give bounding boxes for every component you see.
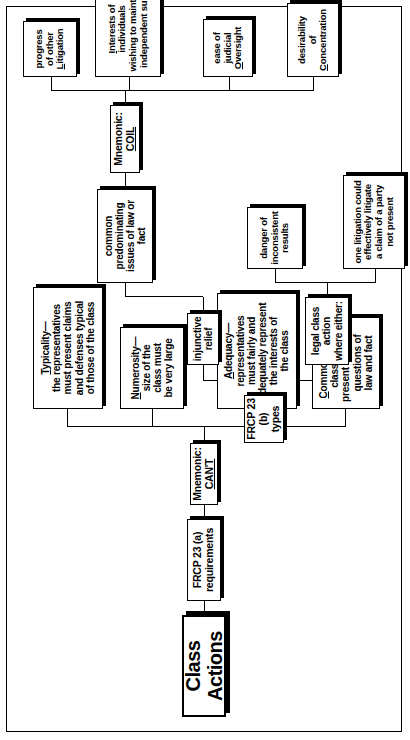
node-frcp-23a[interactable]: FRCP 23 (a) requirements <box>187 519 221 601</box>
connector-mnemonic-stub <box>204 427 205 443</box>
mindmap-canvas: Class Actions FRCP 23 (a) requirements M… <box>7 7 403 733</box>
node-common-predominating[interactable]: common predominating issues of law or fa… <box>97 189 153 283</box>
interests-rest: nterests of individuals wishing to maint… <box>106 0 149 71</box>
commonality-initial: C <box>318 391 329 398</box>
node-mnemonic-cant[interactable]: Mnemonic: CAN'T <box>190 443 218 505</box>
connector-legal-spine <box>275 282 375 283</box>
ease-rest: versight <box>232 27 243 62</box>
node-frcp-23b-label: FRCP 23 (b) types <box>246 398 281 440</box>
node-mnemonic-coil-label: Mnemonic: COIL <box>113 108 137 170</box>
node-numerosity-label: Numerosity— size of the class must be ve… <box>130 337 175 400</box>
connector-common-to-coil <box>125 173 126 189</box>
node-danger-inconsistent-results[interactable]: danger of inconsistent results <box>247 207 303 269</box>
desirability-initial: C <box>317 64 328 71</box>
connector-to-ease <box>229 77 230 91</box>
mnemonic-prefix: Mnemonic: <box>191 447 203 501</box>
mnemonic-coil-value: COIL <box>124 127 136 151</box>
numerosity-rest: umerosity— size of the class must be ver… <box>130 337 175 398</box>
connector-legal-stub <box>327 283 328 297</box>
node-frcp-23b[interactable]: FRCP 23 (b) types <box>244 395 284 443</box>
node-one-litigation[interactable]: one litigation could effectively litigat… <box>343 175 405 269</box>
mnemonic-coil-prefix: Mnemonic: <box>112 112 124 166</box>
node-numerosity[interactable]: Numerosity— size of the class must be ve… <box>120 327 184 409</box>
connector-injunctive-to-common <box>203 297 204 313</box>
node-typicality-label: Typicality— the representatives must pre… <box>40 301 96 395</box>
ease-initial: O <box>232 62 243 69</box>
desirability-rest: oncentration <box>317 9 328 64</box>
connector-coil-spine <box>51 90 313 91</box>
adequacy-initial: A <box>223 372 234 379</box>
node-danger-label: danger of inconsistent results <box>259 211 291 265</box>
numerosity-initial: N <box>130 392 141 399</box>
node-mnemonic-coil[interactable]: Mnemonic: COIL <box>110 105 140 173</box>
node-ease-label: ease of judicial Oversight <box>212 27 244 70</box>
connector-to-danger <box>275 269 276 283</box>
node-adequacy[interactable]: Adequacy— representatives must fairly an… <box>217 293 297 409</box>
node-title-label: Class Actions <box>182 619 227 713</box>
ease-pre: ease of judicial <box>211 32 233 63</box>
node-typicality[interactable]: Typicality— the representatives must pre… <box>33 287 103 409</box>
node-progress-other-litigation[interactable]: progress of other Litigation <box>23 21 77 77</box>
progress-pre: progress of other <box>33 29 55 68</box>
desirability-pre: desirability of <box>296 16 318 64</box>
node-frcp-23a-label: FRCP 23 (a) requirements <box>192 522 216 598</box>
node-progress-label: progress of other Litigation <box>34 29 66 70</box>
typicality-initial: T <box>40 369 51 374</box>
connector-cant-spine <box>67 426 345 427</box>
connector-to-numerosity <box>152 409 153 427</box>
connector-to-injunctive <box>203 365 204 381</box>
connector-to-progress <box>51 77 52 91</box>
connector-injunctive-spine <box>125 296 203 297</box>
node-interests-label: Interests of individuals wishing to main… <box>107 0 150 74</box>
connector-coil-stub <box>125 91 126 105</box>
connector-to-interests <box>129 77 130 91</box>
node-common-predominating-label: common predominating issues of law or fa… <box>103 192 148 280</box>
node-mnemonic-cant-label: Mnemonic: CAN'T <box>192 446 216 502</box>
node-legal-class-action[interactable]: legal class action where either: <box>305 297 349 365</box>
node-title-class-actions[interactable]: Class Actions <box>182 615 226 717</box>
connector-spine-to-common <box>125 283 126 297</box>
node-one-litigation-label: one litigation could effectively litigat… <box>353 180 396 263</box>
connector-to-typicality <box>67 409 68 427</box>
node-desirability-label: desirability of Concentration <box>297 9 329 71</box>
node-desirability-concentration[interactable]: desirability of Concentration <box>287 3 339 77</box>
adequacy-rest: dequacy— representatives must fairly and… <box>223 303 290 400</box>
connector-to-desirability <box>313 77 314 91</box>
node-adequacy-label: Adequacy— representatives must fairly an… <box>223 303 290 400</box>
node-injunctive-relief[interactable]: injunctive relief <box>187 313 219 365</box>
connector-to-one-litigation <box>375 269 376 283</box>
typicality-rest: ypicality— the representatives must pres… <box>40 301 96 395</box>
node-interests-individuals[interactable]: Interests of individuals wishing to main… <box>95 0 161 77</box>
interests-initial: I <box>106 51 117 53</box>
mnemonic-value: CAN'T <box>203 459 215 490</box>
progress-rest: itigation <box>54 29 65 64</box>
node-legal-class-action-label: legal class action where either: <box>310 300 344 362</box>
connector-frcp-a-to-mnemonic <box>204 505 205 519</box>
diagram-frame: Class Actions FRCP 23 (a) requirements M… <box>6 6 402 732</box>
connector-to-commonality <box>345 409 346 427</box>
progress-initial: L <box>54 64 65 70</box>
node-ease-judicial-oversight[interactable]: ease of judicial Oversight <box>203 19 253 77</box>
connector-title-to-frcp-a <box>204 601 205 615</box>
node-injunctive-relief-label: injunctive relief <box>192 316 214 362</box>
